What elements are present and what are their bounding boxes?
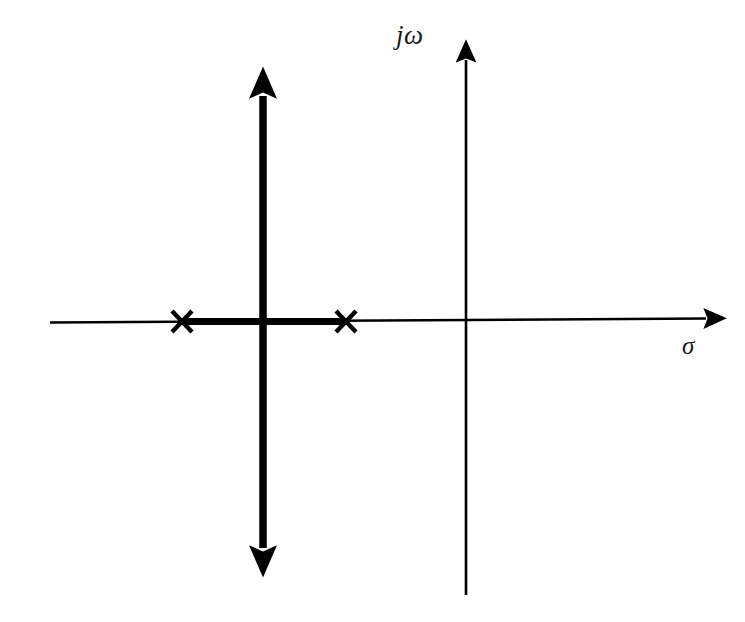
sigma-axis-line <box>50 319 706 323</box>
root-locus-figure: jω σ <box>0 0 745 622</box>
jomega-axis-label: jω <box>396 20 424 51</box>
sigma-axis-label: σ <box>682 332 694 360</box>
s-plane-plot <box>0 0 745 622</box>
